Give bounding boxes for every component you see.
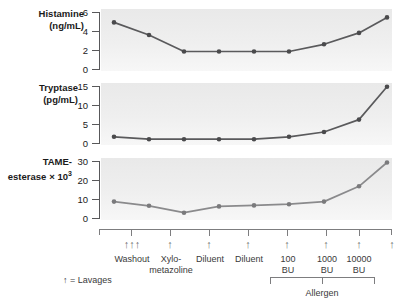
x-axis-left-cap [99,229,100,235]
panel-tryptase-line-svg [101,83,392,145]
lavage-arrow-final: ↑ [377,239,397,250]
panel-tryptase-markers [112,85,390,142]
panel-histamine-markers [112,15,390,54]
allergen-bracket-right-tick [374,277,375,284]
x-axis-tick-1 [170,230,171,236]
panel-tame-ytick-10: 10 [66,195,88,205]
panel-tryptase-ytick-5: 5 [66,120,88,130]
panel-tryptase-tick-10 [92,105,99,106]
panel-tame-tick-10 [92,199,99,200]
x-label-diluent-1-line1: Diluent [196,254,224,264]
allergen-bracket-left-tick [270,277,271,284]
panel-histamine-plot-area [101,9,392,71]
lavage-arrow-allergen-1000bu: ↑ [311,239,341,250]
panel-tryptase-line [114,87,387,139]
panel-tame-tick-20 [92,180,99,181]
panel-tame-plot-area [101,158,392,220]
multi-panel-line-chart: Histamine (ng/mL) 6 4 2 0 [0,0,397,303]
panel-histamine-line-svg [101,9,392,71]
x-label-100bu-line1: 100 [280,254,295,264]
x-axis-tick-5 [326,230,327,236]
lavage-arrow-allergen-100bu: ↑ [272,239,302,250]
lavage-arrow-diluent-2: ↑ [233,239,263,250]
allergen-bracket [270,277,375,285]
panel-tame-axis-title: TAME- esterase× 103 [0,156,72,182]
panel-histamine-ytick-0: 0 [74,65,88,75]
panel-tryptase-tick-5 [92,124,99,125]
lavage-arrow-xylometazoline: ↑ [155,239,185,250]
panel-tame-tick-30 [92,161,99,162]
panel-histamine-tick-4 [92,31,99,32]
panel-tryptase-ytick-0: 0 [66,139,88,149]
panel-histamine-axis-title: Histamine (ng/mL) [0,8,84,31]
panel-tame-line-svg [101,158,392,220]
x-label-xylometazoline-line2: metazoline [145,265,197,276]
x-axis-right-cap [391,229,392,235]
x-label-10000bu-line1: 10000 [346,254,371,264]
allergen-label: Allergen [272,288,372,298]
panel-tryptase-tick-15 [92,86,99,87]
x-axis-tick-4 [287,230,288,236]
x-axis-line [99,229,392,230]
panel-histamine-y-axis [99,12,100,70]
x-axis-tick-6 [359,230,360,236]
panel-histamine-ytick-2: 2 [74,46,88,56]
x-label-xylometazoline-line1: Xylo- [161,254,182,264]
x-label-diluent-2-line1: Diluent [235,254,263,264]
panel-tryptase-plot-area [101,83,392,145]
panel-histamine-line [114,17,387,51]
panel-tame-tick-0 [92,218,99,219]
panel-tame-ytick-0: 0 [66,214,88,224]
x-axis-tick-2 [209,230,210,236]
panel-tryptase-y-axis [99,86,100,144]
panel-histamine-ytick-6: 6 [74,8,88,18]
panel-tame-line [114,163,387,213]
legend-lavages: ↑ = Lavages [63,275,112,286]
x-label-10000bu-line2: BU [333,265,385,276]
panel-tryptase-ytick-15: 15 [66,82,88,92]
lavage-arrow-diluent-1: ↑ [194,239,224,250]
x-axis-tick-3 [248,230,249,236]
panel-histamine-tick-2 [92,50,99,51]
panel-tryptase-tick-0 [92,143,99,144]
panel-tryptase-ytick-10: 10 [66,101,88,111]
panel-tame-ytick-30: 30 [66,157,88,167]
x-axis-tick-0 [131,230,132,236]
panel-tame-axis-title-name2: esterase [8,171,47,182]
panel-histamine-tick-6 [92,12,99,13]
allergen-bracket-center-stem [322,277,323,284]
panel-histamine-ytick-4: 4 [74,27,88,37]
panel-tame-y-axis [99,161,100,219]
lavage-arrow-allergen-10000bu: ↑ [344,239,374,250]
panel-histamine-tick-0 [92,69,99,70]
panel-tame-ytick-20: 20 [66,176,88,186]
lavage-arrows-washout: ↑↑↑ [110,239,154,250]
x-label-10000bu: 10000 BU [333,254,385,275]
